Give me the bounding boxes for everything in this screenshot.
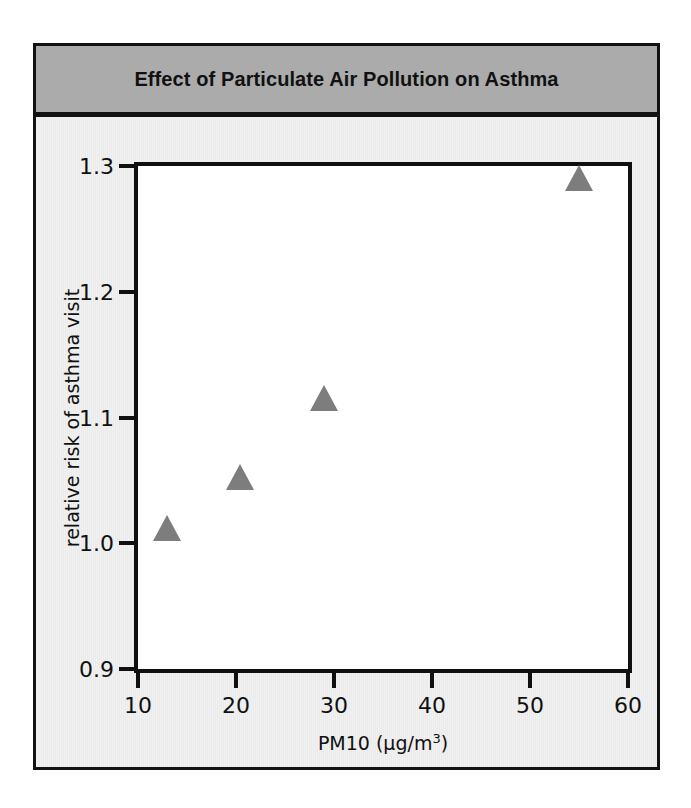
x-axis-label: PM10 (µg/m3) [318,731,448,754]
x-tick-label: 50 [516,693,544,718]
x-tick-label: 40 [418,693,446,718]
x-tick-mark [332,669,336,688]
data-point-marker [226,464,254,490]
x-tick-mark [626,669,630,688]
plot-frame: 0.91.01.11.21.3 102030405060 relative ri… [134,162,632,673]
figure-panel: Effect of Particulate Air Pollution on A… [33,43,660,770]
y-tick-mark [119,541,138,545]
x-tick-label: 30 [320,693,348,718]
data-point-marker [310,385,338,411]
x-tick-mark [136,669,140,688]
x-tick-mark [234,669,238,688]
y-tick-label: 0.9 [79,657,114,682]
y-tick-label: 1.2 [79,279,114,304]
y-tick-mark [119,290,138,294]
x-tick-label: 20 [222,693,250,718]
y-tick-mark [119,416,138,420]
y-tick-mark [119,164,138,168]
chart-title-band: Effect of Particulate Air Pollution on A… [36,46,657,117]
x-tick-mark [528,669,532,688]
x-tick-label: 60 [614,693,642,718]
data-point-marker [153,515,181,541]
y-tick-label: 1.3 [79,154,114,179]
plot-area-wrapper: 0.91.01.11.21.3 102030405060 relative ri… [36,117,657,767]
data-point-marker [565,165,593,191]
y-tick-label: 1.1 [79,405,114,430]
chart-title: Effect of Particulate Air Pollution on A… [134,68,558,91]
y-axis-label: relative risk of asthma visit [61,288,83,546]
y-tick-label: 1.0 [79,531,114,556]
x-tick-label: 10 [124,693,152,718]
x-tick-mark [430,669,434,688]
